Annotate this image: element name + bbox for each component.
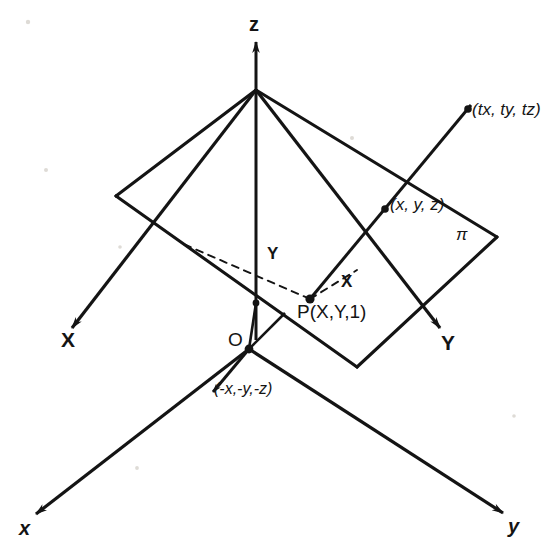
axis-label-x-world: x (19, 518, 30, 538)
geometry-diagram-canvas (0, 0, 551, 557)
axis-X-plane (72, 90, 256, 328)
point-label-ray-point: (x, y, z) (390, 196, 444, 213)
axis-label-Y-plane: Y (441, 332, 455, 353)
measure-label-Y: Y (267, 245, 278, 262)
point-label-P: P(X,Y,1) (297, 302, 366, 321)
point-label-origin: O (228, 330, 243, 349)
axis-x-world (36, 349, 249, 514)
axis-y-world (249, 349, 503, 513)
axis-label-z: z (249, 14, 259, 34)
plane-label-pi: π (456, 226, 467, 243)
dot-scaled-point (464, 105, 472, 113)
point-label-negative-point: (-x,-y,-z) (214, 381, 272, 397)
dot-plane-origin (253, 300, 260, 307)
dot-origin (245, 345, 254, 354)
axis-label-X-plane: X (61, 329, 75, 350)
measure-label-X: X (341, 273, 352, 290)
dot-ray-point (381, 205, 389, 213)
axis-label-y-world: y (508, 516, 519, 536)
point-label-scaled-point: (tx, ty, tz) (472, 101, 541, 118)
